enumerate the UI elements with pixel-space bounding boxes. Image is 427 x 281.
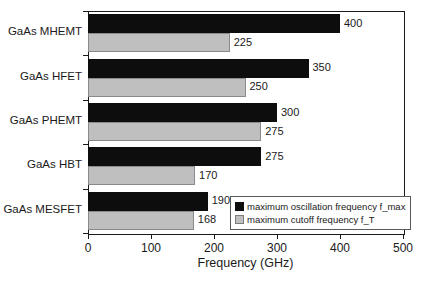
bar-value-ft: 170 [199,169,217,182]
bar-value-fmax: 400 [344,17,362,30]
x-axis-tick-label: 100 [141,241,161,255]
x-axis-tick-label: 0 [85,241,92,255]
y-axis-tick [83,100,88,101]
y-axis-tick [83,144,88,145]
bar-fmax [88,103,277,122]
chart-legend: maximum oscillation frequency f_max maxi… [230,196,411,230]
legend-label-fmax: maximum oscillation frequency f_max [247,201,405,212]
category-label: GaAs HFET [20,70,82,82]
bar-value-fmax: 275 [265,150,283,163]
category-label: GaAs MHEMT [8,25,82,37]
bar-ft [88,166,195,185]
x-axis-tick [214,234,215,239]
bar-value-ft: 250 [250,80,268,93]
bar-value-fmax: 300 [281,106,299,119]
category-label: GaAs PHEMT [10,114,82,126]
bar-value-ft: 275 [265,125,283,138]
legend-item-ft: maximum cutoff frequency f_T [235,213,405,226]
x-axis-title: Frequency (GHz) [88,256,403,270]
bar-ft [88,211,194,230]
bar-value-fmax: 350 [313,61,331,74]
bar-ft [88,33,230,52]
bar-value-ft: 225 [234,36,252,49]
legend-swatch-fmax-icon [235,202,244,211]
x-axis-tick-label: 300 [267,241,287,255]
bar-fmax [88,192,208,211]
bar-chart: 400225GaAs MHEMT350250GaAs HFET300275GaA… [0,0,427,281]
bar-fmax [88,14,340,33]
x-axis-tick [151,234,152,239]
x-axis-tick [340,234,341,239]
bar-value-ft: 168 [198,213,216,226]
bar-fmax [88,147,261,166]
legend-item-fmax: maximum oscillation frequency f_max [235,200,405,213]
bar-value-fmax: 190 [212,194,230,207]
bar-ft [88,122,261,141]
x-axis-tick-label: 500 [393,241,413,255]
category-label: GaAs HBT [27,158,82,170]
x-axis-tick [88,234,89,239]
legend-label-ft: maximum cutoff frequency f_T [247,214,375,225]
x-axis-tick [403,234,404,239]
x-axis-tick-label: 400 [330,241,350,255]
y-axis-tick [83,189,88,190]
x-axis-tick [277,234,278,239]
y-axis-tick [83,55,88,56]
x-axis-tick-label: 200 [204,241,224,255]
legend-swatch-ft-icon [235,215,244,224]
category-label: GaAs MESFET [3,203,82,215]
bar-ft [88,78,246,97]
bar-fmax [88,59,309,78]
y-axis-tick [83,11,88,12]
